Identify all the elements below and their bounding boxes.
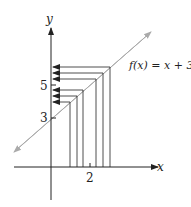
function-label-text: f(x) = x + 3 bbox=[128, 59, 191, 72]
y-tick-label-5: 5 bbox=[40, 79, 48, 93]
mapping-path-4 bbox=[53, 79, 96, 167]
mapping-path-1 bbox=[53, 102, 70, 167]
function-line-tail bbox=[14, 32, 151, 152]
mapping-path-5 bbox=[53, 73, 103, 167]
mapping-path-3 bbox=[53, 90, 83, 167]
mapping-path-6 bbox=[53, 67, 110, 167]
y-axis-label: y bbox=[45, 12, 53, 26]
x-axis-label: x bbox=[157, 160, 164, 174]
function-mapping-diagram: y x 2 3 5 f(x) = x + 3 bbox=[0, 0, 191, 207]
x-tick-label-2: 2 bbox=[86, 171, 94, 185]
y-tick-label-3: 3 bbox=[40, 111, 48, 125]
mapping-paths bbox=[53, 67, 110, 167]
function-label: f(x) = x + 3 bbox=[128, 59, 191, 72]
